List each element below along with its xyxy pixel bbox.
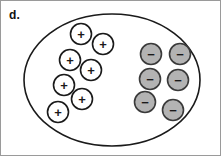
negative-charge-group: −−−−−− (135, 44, 191, 121)
negative-charge-symbol: − (147, 47, 155, 62)
negative-charge-symbol: − (146, 72, 154, 87)
positive-charge: + (81, 60, 102, 81)
negative-charge: − (168, 70, 189, 91)
negative-charge-symbol: − (141, 95, 149, 110)
positive-charge-symbol: + (60, 78, 68, 93)
positive-charge-symbol: + (78, 92, 86, 107)
negative-charge: − (170, 44, 191, 65)
charge-diagram: +++++++ −−−−−− (1, 1, 221, 156)
positive-charge: + (60, 50, 81, 71)
positive-charge-symbol: + (87, 63, 95, 78)
positive-charge: + (93, 34, 114, 55)
negative-charge: − (163, 100, 184, 121)
positive-charge-symbol: + (99, 37, 107, 52)
positive-charge: + (54, 75, 75, 96)
positive-charge: + (71, 24, 92, 45)
positive-charge-symbol: + (54, 105, 62, 120)
negative-charge-symbol: − (176, 47, 184, 62)
positive-charge: + (48, 102, 69, 123)
negative-charge-symbol: − (169, 103, 177, 118)
negative-charge-symbol: − (174, 73, 182, 88)
positive-charge: + (72, 89, 93, 110)
positive-charge-symbol: + (66, 53, 74, 68)
negative-charge: − (141, 44, 162, 65)
figure-panel: d. +++++++ −−−−−− (0, 0, 221, 156)
positive-charge-group: +++++++ (48, 24, 114, 123)
negative-charge: − (135, 92, 156, 113)
negative-charge: − (140, 69, 161, 90)
positive-charge-symbol: + (77, 27, 85, 42)
